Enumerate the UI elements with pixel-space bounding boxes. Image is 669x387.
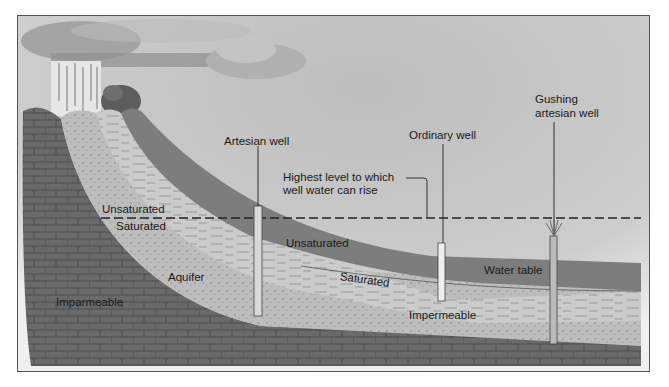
label-gushing-line1: Gushing [535, 93, 578, 106]
label-aquifer: Aquifer [168, 271, 204, 284]
label-saturated-left: Saturated [116, 220, 166, 233]
label-water-table: Water table [484, 264, 542, 277]
label-gushing-line2: artesian well [535, 107, 599, 120]
label-impermeable-left: Imparmeable [56, 296, 123, 309]
label-highest-level-line1: Highest level to which [283, 171, 394, 184]
label-highest-level-line2: well water can rise [283, 184, 378, 197]
label-artesian-well: Artesian well [224, 135, 289, 148]
label-unsaturated-left: Unsaturated [102, 203, 165, 216]
rain-icon [51, 61, 101, 116]
label-impermeable-mid: Impermeable [409, 309, 476, 322]
label-unsaturated-mid: Unsaturated [286, 237, 349, 250]
label-ordinary-well: Ordinary well [409, 129, 476, 142]
